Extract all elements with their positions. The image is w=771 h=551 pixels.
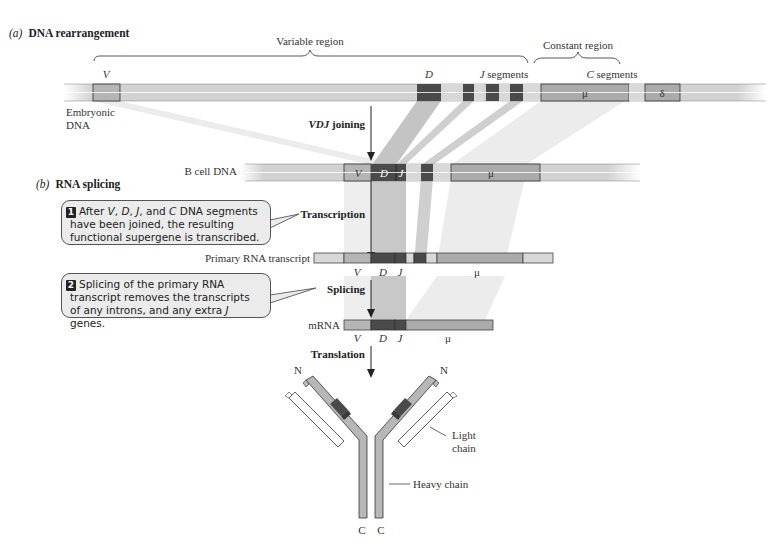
antibody bbox=[285, 376, 457, 518]
embryonic-d-label: D bbox=[424, 68, 433, 80]
primary-d-segment bbox=[371, 253, 395, 263]
primary-d-label: D bbox=[378, 266, 387, 278]
left-heavy-chain bbox=[303, 376, 367, 518]
c-terminus-right: C bbox=[377, 524, 384, 536]
primary-j-segment bbox=[395, 253, 406, 263]
mrna-d-label: D bbox=[378, 332, 387, 344]
vdj-joining-label: VDJ joining bbox=[308, 118, 365, 130]
variable-region-label: Variable region bbox=[276, 35, 344, 47]
light-chain-pointer bbox=[430, 427, 446, 436]
b-cell-dna-bar bbox=[240, 164, 640, 181]
variable-region-brace bbox=[94, 50, 528, 63]
embryonic-dna-label: Embryonic DNA bbox=[66, 106, 118, 131]
primary-transcript-label: Primary RNA transcript bbox=[205, 252, 310, 264]
translation-arrowhead bbox=[367, 369, 375, 378]
transcription-label: Transcription bbox=[300, 208, 365, 220]
b-cell-d-label: D bbox=[379, 167, 388, 179]
mrna-j-label: J bbox=[398, 332, 404, 344]
mu-column-2 bbox=[406, 276, 505, 320]
v-band bbox=[93, 101, 398, 165]
step-1-number: 1 bbox=[66, 207, 76, 218]
c-segments-label: C segments bbox=[586, 68, 637, 80]
light-chain-label: Light chain bbox=[452, 429, 479, 454]
heavy-chain-label: Heavy chain bbox=[413, 478, 469, 490]
panel-b-title: (b)RNA splicing bbox=[36, 178, 121, 191]
j-segments-label: J segments bbox=[480, 68, 529, 80]
constant-region-label: Constant region bbox=[543, 39, 613, 51]
b-cell-dna-label: B cell DNA bbox=[184, 165, 237, 177]
mrna-v-label: V bbox=[354, 332, 362, 344]
dj-column-2 bbox=[371, 276, 406, 320]
mrna-bar bbox=[344, 320, 493, 330]
splicing-label: Splicing bbox=[327, 283, 365, 295]
primary-transcript-bar bbox=[314, 253, 553, 263]
primary-extra-j-segment bbox=[414, 253, 426, 263]
callout-1-pointer bbox=[270, 214, 299, 228]
n-terminus-right: N bbox=[440, 364, 448, 376]
v-column bbox=[344, 178, 371, 263]
mrna-label: mRNA bbox=[308, 319, 340, 331]
step-2-callout: 2Splicing of the primary RNA transcript … bbox=[61, 273, 271, 318]
dj-column bbox=[371, 178, 406, 263]
mu-column bbox=[437, 178, 525, 263]
mrna-mu-segment bbox=[406, 320, 493, 330]
mrna-j-segment bbox=[395, 320, 406, 330]
primary-mu-label: μ bbox=[474, 266, 480, 278]
embryonic-v-label: V bbox=[103, 68, 111, 80]
mrna-mu-label: μ bbox=[445, 332, 451, 344]
constant-region-brace bbox=[534, 52, 620, 64]
mrna-d-segment bbox=[371, 320, 395, 330]
n-terminus-left: N bbox=[294, 364, 302, 376]
embryonic-delta-label: δ bbox=[659, 87, 664, 99]
callout-2-pointer bbox=[270, 288, 316, 303]
embryonic-mu-label: μ bbox=[582, 87, 588, 99]
primary-mu-segment bbox=[437, 253, 523, 263]
step-1-callout: 1After V, D, J, and C DNA segments have … bbox=[61, 200, 271, 245]
c-terminus-left: C bbox=[358, 524, 365, 536]
j-extra-column bbox=[414, 178, 433, 263]
mrna-v-segment bbox=[344, 320, 371, 330]
step-2-number: 2 bbox=[66, 280, 76, 291]
b-cell-mu-label: μ bbox=[488, 167, 494, 179]
right-heavy-chain bbox=[375, 376, 439, 518]
primary-v-segment bbox=[344, 253, 371, 263]
panel-a-title: (a)DNA rearrangement bbox=[9, 27, 130, 40]
translation-label: Translation bbox=[311, 348, 365, 360]
